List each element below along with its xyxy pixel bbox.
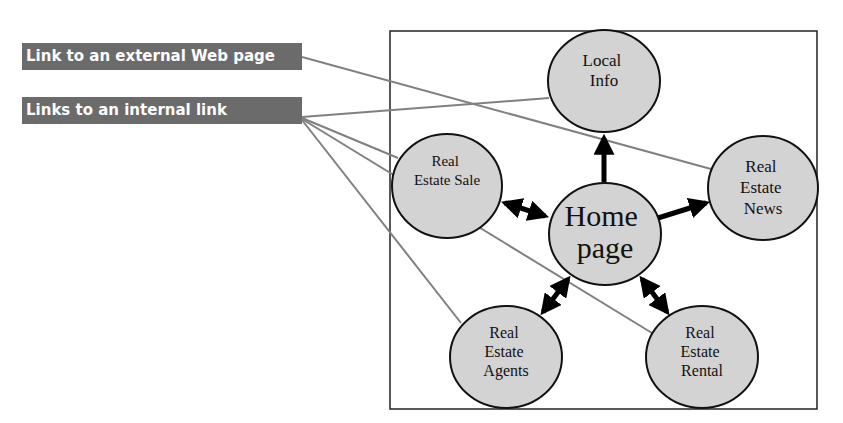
real-estate-agents-label: Real Estate Agents <box>483 324 528 380</box>
site-map-diagram: Local Info Home page Real Estate Sale Re… <box>0 0 843 423</box>
arrow-home-agents <box>543 279 568 312</box>
real-estate-news-label: Real Estate News <box>740 157 786 218</box>
arrow-home-sale <box>505 203 545 216</box>
real-estate-rental-label: Real Estate Rental <box>680 324 723 379</box>
arrow-home-rental <box>642 279 667 312</box>
home-page-label: Home page <box>565 199 646 264</box>
arrow-home-to-news <box>658 203 706 218</box>
